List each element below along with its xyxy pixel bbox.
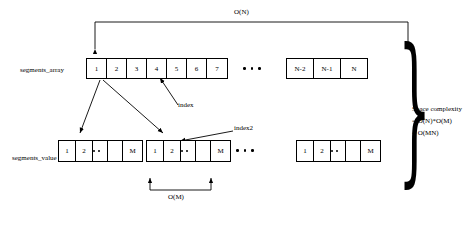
ellipsis-dots-value-2 xyxy=(181,150,188,152)
value-cell-blank[interactable] xyxy=(346,141,361,161)
segments-value-array-2[interactable]: 1 2 M xyxy=(146,140,231,162)
segments-value-array-1[interactable]: 1 2 M xyxy=(58,140,143,162)
value-cell[interactable]: 2 xyxy=(164,141,181,161)
segments-array-right[interactable]: N-2 N-1 N xyxy=(286,58,368,79)
dot xyxy=(181,150,183,152)
dot xyxy=(331,150,333,152)
value-cell[interactable]: 1 xyxy=(147,141,164,161)
ellipsis-dots-top-array xyxy=(243,67,261,70)
value-cell[interactable]: 2 xyxy=(314,141,331,161)
dot xyxy=(336,150,338,152)
label-index: index xyxy=(178,101,194,109)
ellipsis-dots-value-3 xyxy=(331,150,338,152)
value-cell[interactable]: M xyxy=(361,141,380,161)
dot xyxy=(251,67,254,70)
ellipsis-dots-between-values xyxy=(236,149,254,152)
segments-value-array-3[interactable]: 1 2 M xyxy=(296,140,381,162)
label-segments-array: segments_array xyxy=(20,66,64,74)
label-om: O(M) xyxy=(168,193,184,201)
array-cell[interactable]: N-1 xyxy=(314,59,341,78)
dot xyxy=(243,67,246,70)
value-cell[interactable]: 1 xyxy=(297,141,314,161)
value-cell[interactable]: 2 xyxy=(76,141,93,161)
dot xyxy=(98,150,100,152)
array-cell[interactable]: 2 xyxy=(107,59,127,78)
ellipsis-dots-value-1 xyxy=(93,150,100,152)
label-index2: index2 xyxy=(234,124,253,132)
array-cell[interactable]: 6 xyxy=(187,59,207,78)
label-space-eq2: = O(MN) xyxy=(412,129,439,137)
label-segments-value: segments_value xyxy=(12,154,57,162)
array-cell[interactable]: 5 xyxy=(167,59,187,78)
array-cell[interactable]: 1 xyxy=(87,59,107,78)
dot xyxy=(186,150,188,152)
dot xyxy=(258,67,261,70)
value-cell[interactable]: M xyxy=(211,141,230,161)
array-cell[interactable]: N-2 xyxy=(287,59,314,78)
dot xyxy=(236,149,239,152)
array-cell[interactable]: N xyxy=(341,59,367,78)
diagram-arrows xyxy=(0,0,467,230)
dot xyxy=(251,149,254,152)
dot xyxy=(93,150,95,152)
label-on-top: O(N) xyxy=(234,8,249,16)
diagram-canvas: O(N) segments_array 1 2 3 4 5 6 7 N-2 N-… xyxy=(0,0,467,230)
value-cell-blank[interactable] xyxy=(196,141,211,161)
value-cell[interactable]: M xyxy=(123,141,142,161)
dot xyxy=(244,149,247,152)
segments-array-left[interactable]: 1 2 3 4 5 6 7 xyxy=(86,58,228,79)
value-cell-blank[interactable] xyxy=(108,141,123,161)
array-cell[interactable]: 7 xyxy=(207,59,227,78)
value-cell[interactable]: 1 xyxy=(59,141,76,161)
label-space-complexity: Space complexity xyxy=(412,105,462,113)
array-cell[interactable]: 3 xyxy=(127,59,147,78)
array-cell[interactable]: 4 xyxy=(147,59,167,78)
label-space-eq1: = O(N)*O(M) xyxy=(412,117,452,125)
